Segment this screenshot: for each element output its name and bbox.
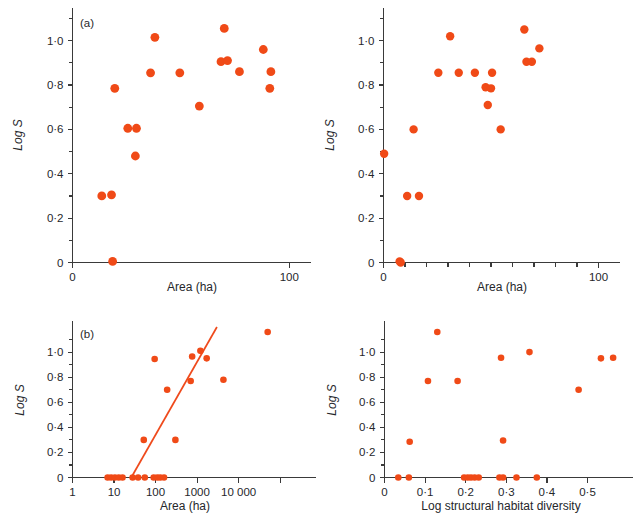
data-point (266, 67, 275, 76)
panel-b-points (104, 329, 271, 481)
data-point (535, 44, 543, 52)
data-point (488, 69, 496, 77)
panel-tr-points (380, 25, 544, 266)
panel-b-x-ticks: 110100100010 000 (69, 478, 280, 498)
data-point (434, 69, 442, 77)
panel-tr-axes (384, 8, 621, 263)
y-tick-label: 0·2 (47, 212, 64, 224)
data-point (406, 438, 413, 445)
data-point (471, 69, 479, 77)
y-tick-label: 0·6 (358, 123, 375, 135)
data-point (500, 437, 507, 444)
data-point (108, 257, 117, 266)
data-point (119, 474, 126, 481)
panel-b-plot: 00·20·40·60·81·0 110100100010 000 (b) Ar… (0, 305, 320, 522)
data-point (259, 45, 268, 54)
y-tick-label: 0·4 (47, 168, 64, 180)
y-tick-label: 0·6 (47, 123, 64, 135)
data-point (446, 32, 454, 40)
y-tick-label: 0·6 (47, 396, 64, 408)
data-point (150, 33, 159, 42)
y-tick-label: 0·2 (47, 446, 64, 458)
data-point (409, 125, 417, 133)
x-axis-title-br: Log structural habitat diversity (421, 499, 580, 513)
panel-label-a: (a) (80, 17, 94, 29)
x-tick-label: 0 (380, 271, 386, 283)
data-point (197, 348, 204, 355)
panel-tr-plot: 00·20·40·60·81·0 0100 Area (ha) Log S (318, 0, 638, 300)
y-tick-label: 1·0 (47, 35, 64, 47)
panel-a-top-left: 00·20·40·60·81·0 0100 (a) Area (ha) Log … (0, 0, 320, 300)
data-point (610, 354, 617, 361)
data-point (575, 386, 582, 393)
x-tick-label: 10 (108, 486, 121, 498)
data-point (220, 24, 229, 33)
panel-tr-y-ticks: 00·20·40·60·81·0 (358, 18, 384, 268)
data-point (598, 355, 605, 362)
x-tick-label: 1000 (184, 486, 210, 498)
x-tick-label: 0 (69, 271, 75, 283)
data-point (164, 386, 171, 393)
data-point (496, 125, 504, 133)
y-tick-label: 0 (369, 472, 375, 484)
data-point (406, 474, 413, 481)
data-point (110, 84, 119, 93)
data-point (97, 192, 106, 201)
x-tick-label: 100 (146, 486, 165, 498)
data-point (175, 68, 184, 77)
data-point (513, 474, 520, 481)
data-point (132, 124, 141, 133)
y-tick-label: 0·8 (47, 371, 64, 383)
y-tick-label: 0·4 (47, 421, 64, 433)
y-tick-label: 1·0 (358, 35, 375, 47)
panel-b-bottom-left: 00·20·40·60·81·0 110100100010 000 (b) Ar… (0, 305, 320, 522)
data-point (141, 474, 148, 481)
data-point (454, 378, 461, 385)
data-point (187, 378, 194, 385)
panel-br-points (395, 329, 616, 481)
data-point (528, 58, 536, 66)
y-tick-label: 0·6 (359, 396, 376, 408)
data-point (107, 190, 116, 199)
y-tick-label: 0 (57, 257, 63, 269)
y-axis-title-b: Log S (13, 384, 27, 415)
x-tick-label: 10 000 (221, 486, 256, 498)
data-point (434, 329, 441, 336)
data-point (520, 25, 528, 33)
panel-a-points (97, 24, 275, 266)
y-tick-label: 0·8 (358, 79, 375, 91)
data-point (533, 474, 540, 481)
x-tick-label: 100 (280, 271, 299, 283)
regression-line (131, 327, 217, 478)
data-point (265, 84, 274, 93)
data-point (487, 84, 495, 92)
x-tick-label: 0·1 (417, 486, 434, 498)
data-point (131, 152, 140, 161)
y-tick-label: 0·8 (47, 79, 64, 91)
y-tick-label: 0·2 (358, 212, 375, 224)
data-point (146, 68, 155, 77)
data-point (189, 353, 196, 360)
data-point (151, 356, 158, 363)
data-point (195, 102, 204, 111)
x-tick-label: 1 (69, 486, 75, 498)
data-point (172, 437, 179, 444)
data-point (500, 474, 507, 481)
panel-bottom-right: 00·20·40·60·81·0 00·10·20·30·40·5 Log st… (318, 305, 638, 522)
panel-br-x-ticks: 00·10·20·30·40·5 (381, 478, 596, 498)
panel-b-fitline (131, 327, 217, 478)
data-point (526, 349, 533, 356)
data-point (135, 474, 142, 481)
data-point (203, 355, 210, 362)
panel-br-axes (385, 321, 634, 478)
x-tick-label: 0·5 (579, 486, 596, 498)
panel-br-y-ticks: 00·20·40·60·81·0 (359, 340, 385, 484)
data-point (455, 69, 463, 77)
data-point (220, 376, 227, 383)
panel-b-axes (73, 321, 317, 478)
x-tick-label: 0·3 (498, 486, 515, 498)
x-tick-label: 0·2 (457, 486, 474, 498)
panel-br-plot: 00·20·40·60·81·0 00·10·20·30·40·5 Log st… (318, 305, 638, 522)
y-tick-label: 0·4 (358, 168, 375, 180)
y-tick-label: 0 (368, 257, 374, 269)
